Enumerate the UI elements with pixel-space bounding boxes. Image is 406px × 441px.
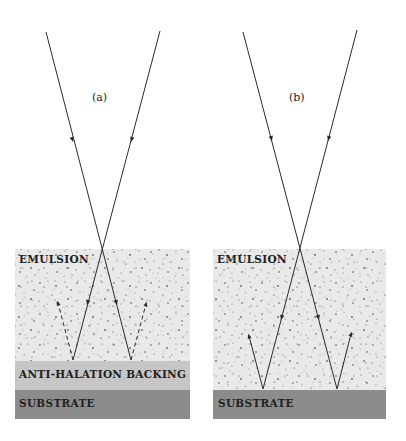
panel-label-b: (b) (289, 91, 305, 104)
arrow-icon (129, 137, 135, 143)
substrate-label-a: SUBSTRATE (19, 397, 95, 409)
substrate-label-b: SUBSTRATE (218, 397, 294, 409)
panel-a (15, 31, 190, 419)
emulsion-label-a: EMULSION (19, 253, 89, 265)
backing-label: ANTI-HALATION BACKING (19, 368, 186, 380)
halation-diagram: (a) (b) EMULSION ANTI-HALATION BACKING S… (0, 0, 406, 441)
emulsion-label-b: EMULSION (217, 253, 287, 265)
panel-label-a: (a) (92, 91, 107, 104)
panel-b (213, 30, 386, 419)
arrow-icon (326, 136, 332, 142)
